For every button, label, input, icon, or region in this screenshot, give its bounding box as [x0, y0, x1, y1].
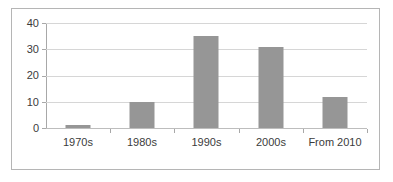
y-axis-label-0: 0 — [15, 123, 39, 134]
x-axis-label-1990s: 1990s — [174, 136, 239, 149]
bar-slot-1970s — [46, 23, 110, 128]
x-tick-1 — [110, 129, 111, 133]
bar-2000s[interactable] — [258, 47, 283, 128]
chart-plot-wrapper: 40 30 20 10 0 — [12, 9, 379, 169]
bar-1990s[interactable] — [194, 36, 219, 128]
x-axis-label-from-2010: From 2010 — [303, 136, 367, 149]
y-axis-label-20: 20 — [15, 70, 39, 81]
chart-frame: 40 30 20 10 0 — [11, 8, 380, 170]
chart-bars — [46, 23, 367, 128]
x-axis-label-2000s: 2000s — [239, 136, 303, 149]
x-tick-2 — [174, 129, 175, 133]
y-axis-label-30: 30 — [15, 44, 39, 55]
bar-from-2010[interactable] — [322, 97, 347, 129]
bar-1980s[interactable] — [130, 102, 155, 128]
x-tick-4 — [303, 129, 304, 133]
y-axis-label-10: 10 — [15, 97, 39, 108]
bar-slot-1990s — [174, 23, 238, 128]
bar-slot-from-2010 — [303, 23, 367, 128]
x-axis-label-1980s: 1980s — [110, 136, 174, 149]
x-tick-3 — [239, 129, 240, 133]
y-axis-labels: 40 30 20 10 0 — [12, 9, 39, 169]
y-axis-label-40: 40 — [15, 18, 39, 29]
gridline-baseline-0 — [46, 128, 367, 129]
x-tick-5 — [367, 129, 368, 133]
bar-slot-2000s — [239, 23, 303, 128]
bar-slot-1980s — [110, 23, 174, 128]
bar-1970s[interactable] — [66, 125, 91, 128]
x-axis-label-1970s: 1970s — [46, 136, 110, 149]
